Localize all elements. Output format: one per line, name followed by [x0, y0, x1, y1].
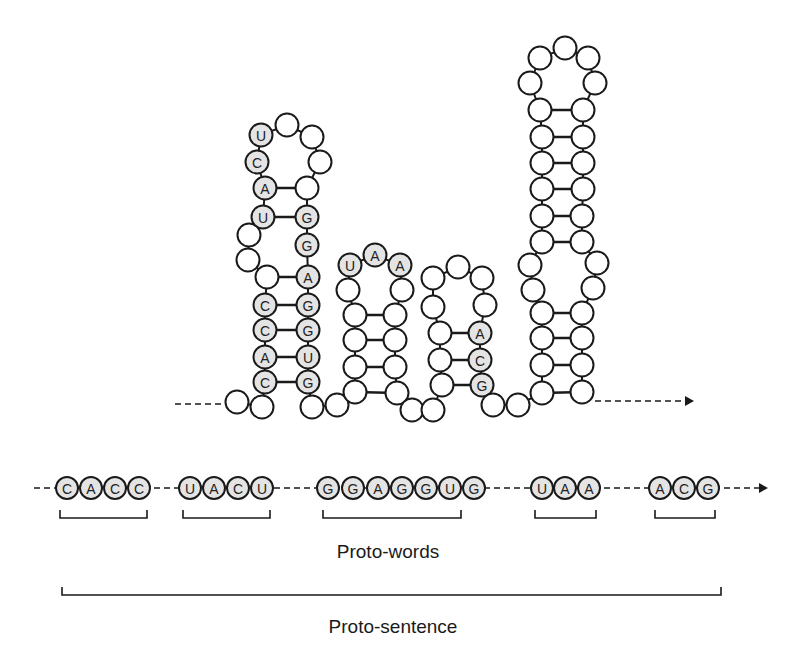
nucleotide-circle [237, 249, 260, 272]
nucleotide-circle [531, 354, 554, 377]
nucleotide-letter: U [257, 481, 267, 497]
nucleotide [237, 249, 260, 272]
nucleotide-circle [391, 279, 414, 302]
nucleotide [344, 356, 367, 379]
arrow-head-icon [685, 396, 694, 406]
nucleotide: C [246, 151, 269, 174]
nucleotide [586, 252, 609, 275]
nucleotide [309, 151, 332, 174]
nucleotide-letter: U [303, 350, 313, 366]
nucleotide-circle [422, 399, 445, 422]
nucleotide: G [296, 234, 319, 257]
nucleotide-letter: A [370, 248, 380, 264]
nucleotide-circle [522, 279, 545, 302]
proto-word-bracket [60, 510, 147, 518]
nucleotide: A [254, 177, 277, 200]
nucleotide-letter: A [655, 481, 665, 497]
nucleotide-circle [384, 329, 407, 352]
nucleotide-letter: U [256, 128, 266, 144]
nucleotide-letter: C [679, 481, 689, 497]
nucleotide [296, 177, 319, 200]
proto-sentence-label: Proto-sentence [329, 616, 458, 638]
nucleotide: U [251, 477, 273, 499]
nucleotide: A [469, 322, 492, 345]
nucleotide-circle [582, 277, 605, 300]
nucleotide-circle [344, 304, 367, 327]
nucleotide [531, 205, 554, 228]
nucleotide: A [578, 477, 600, 499]
nucleotide-circle [251, 396, 274, 419]
nucleotide [529, 47, 552, 70]
nucleotide-circle [256, 266, 279, 289]
nucleotide-circles: CACCUACUGGAGGUGUAAACG [226, 37, 609, 422]
nucleotide: C [128, 477, 150, 499]
nucleotide-circle [519, 72, 542, 95]
linear-sequence-row: CACCUACUGGAGGUGUAAACG [34, 477, 768, 499]
nucleotide [531, 382, 554, 405]
nucleotide: U [252, 206, 275, 229]
nucleotide-circle [572, 178, 595, 201]
nucleotide [422, 296, 445, 319]
nucleotide-circle [384, 304, 407, 327]
nucleotide [519, 254, 542, 277]
nucleotide [301, 396, 324, 419]
nucleotide-circle [531, 327, 554, 350]
nucleotide-letter: C [260, 298, 270, 314]
proto-word: ACG [649, 477, 719, 499]
nucleotide-circle [276, 114, 299, 137]
nucleotide: C [254, 371, 277, 394]
nucleotide: G [342, 477, 364, 499]
nucleotide-circle [577, 47, 600, 70]
nucleotide: A [364, 244, 387, 267]
nucleotide-circle [572, 126, 595, 149]
nucleotide-letter: U [258, 210, 268, 226]
nucleotide [577, 47, 600, 70]
nucleotide [344, 381, 367, 404]
nucleotide [571, 205, 594, 228]
nucleotide [571, 354, 594, 377]
nucleotide: U [297, 346, 320, 369]
nucleotide [531, 327, 554, 350]
nucleotide-letter: U [185, 481, 195, 497]
nucleotide: C [254, 319, 277, 342]
nucleotide-circle [344, 356, 367, 379]
nucleotide-circle [572, 152, 595, 175]
nucleotide [401, 399, 424, 422]
nucleotide [572, 126, 595, 149]
nucleotide-circle [344, 329, 367, 352]
nucleotide: C [469, 349, 492, 372]
nucleotide [276, 114, 299, 137]
nucleotide-circle [554, 37, 577, 60]
nucleotide [571, 327, 594, 350]
nucleotide-circle [344, 381, 367, 404]
nucleotide-letter: G [323, 481, 334, 497]
nucleotide-letter: A [560, 481, 570, 497]
nucleotide-circle [531, 205, 554, 228]
nucleotide-circle [422, 267, 445, 290]
nucleotide [344, 329, 367, 352]
nucleotide [429, 322, 452, 345]
nucleotide-letter: C [252, 155, 262, 171]
arrow-head-icon [759, 483, 768, 493]
nucleotide-circle [431, 374, 454, 397]
nucleotide-circle [401, 399, 424, 422]
nucleotide [554, 37, 577, 60]
nucleotide-circle [309, 151, 332, 174]
nucleotide [384, 329, 407, 352]
nucleotide: G [697, 477, 719, 499]
nucleotide [429, 349, 452, 372]
nucleotide [531, 126, 554, 149]
nucleotide-letter: U [445, 481, 455, 497]
nucleotide-letter: G [348, 481, 359, 497]
nucleotide: A [80, 477, 102, 499]
nucleotide [531, 302, 554, 325]
nucleotide: A [203, 477, 225, 499]
nucleotide [226, 391, 249, 414]
nucleotide-circle [301, 126, 324, 149]
nucleotide: U [250, 124, 273, 147]
nucleotide [522, 279, 545, 302]
nucleotide: G [463, 477, 485, 499]
nucleotide-letter: A [260, 350, 270, 366]
nucleotide-circle [531, 302, 554, 325]
nucleotide [584, 72, 607, 95]
